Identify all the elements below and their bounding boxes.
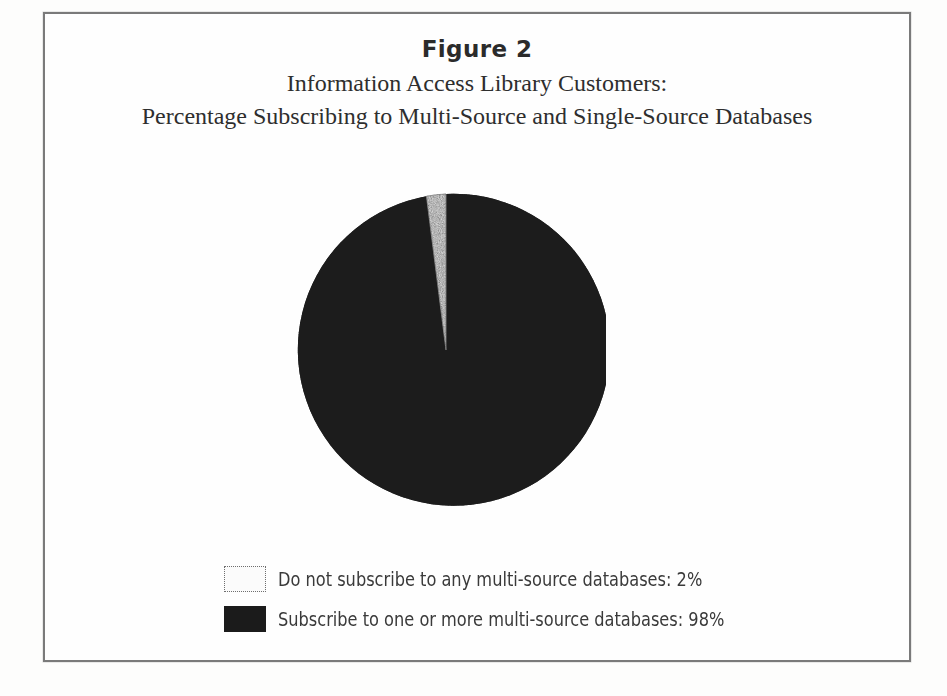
figure-title-line-1: Information Access Library Customers: (45, 67, 909, 100)
legend-swatch-light-icon (224, 566, 266, 592)
chart-legend: Do not subscribe to any multi-source dat… (224, 559, 824, 639)
pie-chart-svg (286, 190, 606, 510)
pie-slice-subscribe (298, 194, 606, 506)
figure-frame: Figure 2 Information Access Library Cust… (43, 12, 911, 662)
legend-item-do-not-subscribe: Do not subscribe to any multi-source dat… (224, 559, 824, 599)
legend-item-subscribe: Subscribe to one or more multi-source da… (224, 599, 824, 639)
figure-title-line-2: Percentage Subscribing to Multi-Source a… (45, 100, 909, 133)
legend-label-do-not-subscribe: Do not subscribe to any multi-source dat… (278, 567, 702, 591)
pie-slice-do-not-subscribe (426, 194, 446, 350)
legend-label-subscribe: Subscribe to one or more multi-source da… (278, 607, 724, 631)
figure-title-block: Figure 2 Information Access Library Cust… (45, 36, 909, 133)
figure-number-label: Figure 2 (45, 36, 909, 63)
legend-swatch-dark-icon (224, 606, 266, 632)
